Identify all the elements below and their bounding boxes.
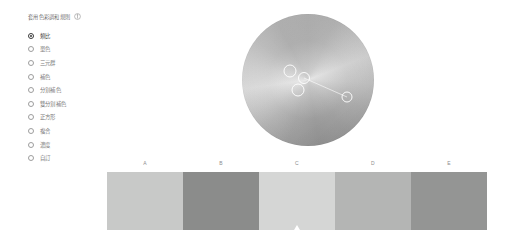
harmony-rule-option-6[interactable]: 正方形: [28, 111, 138, 125]
harmony-rule-option-8[interactable]: 濃度: [28, 138, 138, 152]
harmony-rule-label: 分割補色: [40, 86, 61, 94]
harmony-rule-label: 雙分割補色: [40, 100, 66, 108]
radio-button-icon[interactable]: [28, 33, 34, 39]
radio-button-icon[interactable]: [28, 60, 34, 66]
harmony-rule-label: 自訂: [40, 154, 50, 162]
radio-button-icon[interactable]: [28, 74, 34, 80]
harmony-rule-label: 三元群: [40, 59, 56, 67]
harmony-rules-panel: 套用色彩調和規則 類比單色三元群補色分割補色雙分割補色正方形複合濃度自訂: [28, 11, 138, 165]
swatch-label-row: ABCDE: [107, 160, 487, 172]
radio-button-icon[interactable]: [28, 46, 34, 52]
color-swatch-c[interactable]: [259, 172, 335, 230]
marker-c[interactable]: [292, 84, 305, 97]
harmony-rule-option-3[interactable]: 補色: [28, 70, 138, 84]
harmony-rule-label: 單色: [40, 45, 50, 53]
harmony-rule-option-0[interactable]: 類比: [28, 29, 138, 43]
harmony-rules-header: 套用色彩調和規則: [28, 11, 138, 22]
color-wheel-area[interactable]: [242, 14, 374, 146]
swatch-label-b: B: [183, 160, 259, 172]
harmony-rules-list: 類比單色三元群補色分割補色雙分割補色正方形複合濃度自訂: [28, 29, 138, 165]
radio-button-icon[interactable]: [28, 142, 34, 148]
color-swatch-d[interactable]: [335, 172, 411, 230]
marker-d[interactable]: [342, 92, 353, 103]
radio-button-icon[interactable]: [28, 114, 34, 120]
radio-button-icon[interactable]: [28, 128, 34, 134]
selection-triangle-icon: [294, 225, 300, 230]
swatch-label-c: C: [259, 160, 335, 172]
color-swatch-area: ABCDE: [107, 160, 487, 230]
marker-b[interactable]: [298, 72, 310, 84]
harmony-rules-title: 套用色彩調和規則: [28, 13, 70, 20]
harmony-rule-label: 類比: [40, 32, 50, 40]
marker-a[interactable]: [284, 65, 297, 78]
radio-button-icon[interactable]: [28, 155, 34, 161]
harmony-rule-option-7[interactable]: 複合: [28, 124, 138, 138]
harmony-rule-option-5[interactable]: 雙分割補色: [28, 97, 138, 111]
radio-button-icon[interactable]: [28, 87, 34, 93]
color-swatch-b[interactable]: [183, 172, 259, 230]
swatch-label-d: D: [335, 160, 411, 172]
harmony-rule-label: 補色: [40, 73, 50, 81]
info-icon[interactable]: [74, 13, 81, 20]
radio-button-icon[interactable]: [28, 101, 34, 107]
swatch-strip: [107, 172, 487, 230]
harmony-rule-option-1[interactable]: 單色: [28, 43, 138, 57]
harmony-rule-option-2[interactable]: 三元群: [28, 56, 138, 70]
color-swatch-a[interactable]: [107, 172, 183, 230]
harmony-rule-label: 濃度: [40, 141, 50, 149]
harmony-rule-label: 正方形: [40, 113, 56, 121]
harmony-rule-label: 複合: [40, 127, 50, 135]
color-swatch-e[interactable]: [411, 172, 487, 230]
swatch-label-a: A: [107, 160, 183, 172]
harmony-rule-option-4[interactable]: 分割補色: [28, 83, 138, 97]
swatch-label-e: E: [411, 160, 487, 172]
